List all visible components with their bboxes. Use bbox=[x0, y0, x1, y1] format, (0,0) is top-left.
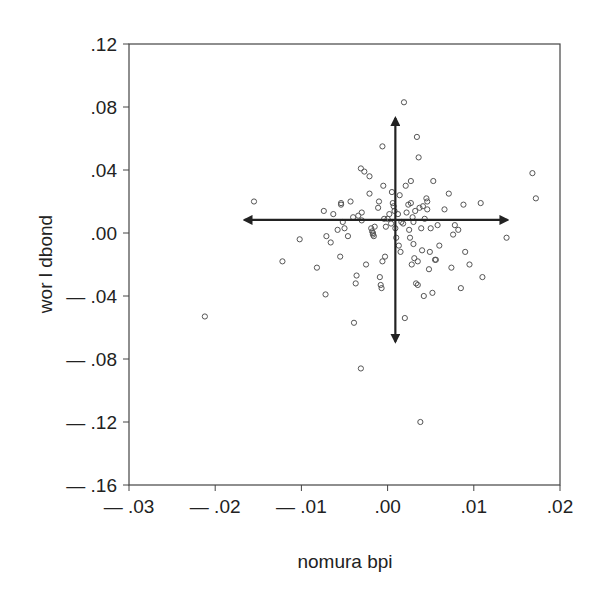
data-point bbox=[411, 241, 416, 246]
data-point bbox=[331, 212, 336, 217]
data-point bbox=[463, 249, 468, 254]
data-point bbox=[379, 286, 384, 291]
data-point bbox=[342, 226, 347, 231]
y-tick-label: — .16 bbox=[66, 475, 117, 496]
data-point bbox=[345, 234, 350, 239]
x-axis: — .03— .02— .01.00.01.02 bbox=[104, 485, 574, 517]
data-point bbox=[359, 210, 364, 215]
data-point bbox=[409, 262, 414, 267]
data-point bbox=[387, 212, 392, 217]
data-points bbox=[202, 100, 538, 425]
data-point bbox=[367, 191, 372, 196]
data-point bbox=[338, 254, 343, 259]
data-point bbox=[419, 226, 424, 231]
data-point bbox=[396, 243, 401, 248]
data-point bbox=[480, 275, 485, 280]
data-point bbox=[437, 243, 442, 248]
x-tick-label: — .02 bbox=[190, 496, 241, 517]
data-point bbox=[314, 265, 319, 270]
y-axis-title: wor l dbond bbox=[35, 215, 56, 314]
y-tick-label: .00 bbox=[91, 223, 117, 244]
data-point bbox=[430, 290, 435, 295]
data-point bbox=[398, 249, 403, 254]
data-point bbox=[353, 281, 358, 286]
data-point bbox=[403, 183, 408, 188]
data-point bbox=[407, 227, 412, 232]
y-axis: .12.08.04.00— .04— .08— .12— .16 bbox=[66, 34, 129, 496]
data-point bbox=[533, 196, 538, 201]
data-point bbox=[456, 227, 461, 232]
data-point bbox=[362, 169, 367, 174]
data-point bbox=[335, 227, 340, 232]
data-point bbox=[323, 292, 328, 297]
data-point bbox=[348, 199, 353, 204]
data-point bbox=[388, 221, 393, 226]
data-point bbox=[426, 267, 431, 272]
data-point bbox=[415, 259, 420, 264]
data-point bbox=[380, 144, 385, 149]
y-tick-label: — .04 bbox=[66, 286, 117, 307]
data-point bbox=[354, 273, 359, 278]
data-point bbox=[280, 259, 285, 264]
data-point bbox=[452, 223, 457, 228]
data-point bbox=[458, 286, 463, 291]
data-point bbox=[401, 100, 406, 105]
data-point bbox=[418, 419, 423, 424]
arrow-annotations bbox=[245, 118, 508, 342]
data-point bbox=[442, 207, 447, 212]
y-tick-label: — .12 bbox=[66, 412, 117, 433]
data-point bbox=[328, 240, 333, 245]
data-point bbox=[397, 193, 402, 198]
data-point bbox=[381, 183, 386, 188]
data-point bbox=[427, 249, 432, 254]
data-point bbox=[431, 178, 436, 183]
data-point bbox=[451, 232, 456, 237]
data-point bbox=[371, 234, 376, 239]
data-point bbox=[449, 265, 454, 270]
x-axis-title: nomura bpi bbox=[297, 551, 392, 572]
scatter-chart: .12.08.04.00— .04— .08— .12— .16 — .03— … bbox=[0, 0, 604, 596]
data-point bbox=[446, 191, 451, 196]
x-tick-label: — .03 bbox=[104, 496, 155, 517]
data-point bbox=[367, 174, 372, 179]
data-point bbox=[407, 235, 412, 240]
x-tick-label: .00 bbox=[374, 496, 400, 517]
x-tick-label: — .01 bbox=[276, 496, 327, 517]
y-tick-label: — .08 bbox=[66, 349, 117, 370]
data-point bbox=[414, 134, 419, 139]
y-tick-label: .08 bbox=[91, 97, 117, 118]
data-point bbox=[351, 320, 356, 325]
data-point bbox=[408, 178, 413, 183]
data-point bbox=[461, 202, 466, 207]
y-tick-label: .12 bbox=[91, 34, 117, 55]
plot-frame bbox=[129, 44, 560, 485]
data-point bbox=[435, 223, 440, 228]
data-point bbox=[377, 275, 382, 280]
data-point bbox=[324, 234, 329, 239]
data-point bbox=[419, 248, 424, 253]
data-point bbox=[376, 205, 381, 210]
data-point bbox=[467, 262, 472, 267]
data-point bbox=[425, 199, 430, 204]
data-point bbox=[382, 254, 387, 259]
data-point bbox=[530, 171, 535, 176]
data-point bbox=[321, 208, 326, 213]
data-point bbox=[402, 315, 407, 320]
x-tick-label: .01 bbox=[461, 496, 487, 517]
data-point bbox=[251, 199, 256, 204]
data-point bbox=[389, 189, 394, 194]
data-point bbox=[504, 235, 509, 240]
data-point bbox=[358, 366, 363, 371]
data-point bbox=[425, 207, 430, 212]
data-point bbox=[428, 226, 433, 231]
data-point bbox=[383, 224, 388, 229]
data-point bbox=[404, 210, 409, 215]
y-tick-label: .04 bbox=[91, 160, 118, 181]
data-point bbox=[363, 262, 368, 267]
data-point bbox=[376, 199, 381, 204]
x-tick-label: .02 bbox=[547, 496, 573, 517]
data-point bbox=[421, 293, 426, 298]
data-point bbox=[416, 155, 421, 160]
data-point bbox=[202, 314, 207, 319]
data-point bbox=[478, 200, 483, 205]
